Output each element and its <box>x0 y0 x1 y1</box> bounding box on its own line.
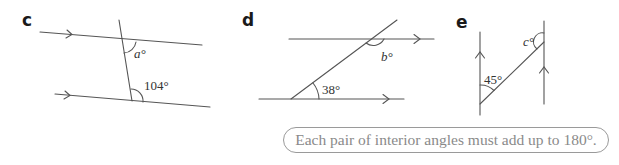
diagram-d-angle-38-arc <box>313 83 319 99</box>
diagram-e-lines <box>476 21 549 115</box>
diagram-e-angle-45-label: 45° <box>484 73 502 86</box>
diagram-e-angle-c-label: c° <box>523 35 534 48</box>
diagram-c-angle-104-label: 104° <box>144 79 169 92</box>
diagram-e-part-label: e <box>456 14 468 31</box>
diagram-c-lines <box>40 20 210 107</box>
diagram-c-part-label: c <box>22 12 32 29</box>
diagram-c-transversal <box>119 20 132 101</box>
diagram-d-part-label: d <box>242 12 254 29</box>
diagram-d-angle-38-label: 38° <box>322 83 340 96</box>
diagram-c-bottom-parallel-line <box>55 94 210 107</box>
diagram-d-lines <box>259 20 434 104</box>
hint-text: Each pair of interior angles must add up… <box>295 131 597 149</box>
diagram-d-angle-b-arc <box>366 39 384 46</box>
diagram-c-angle-a-label: a° <box>134 47 146 60</box>
hint-box: Each pair of interior angles must add up… <box>283 127 609 153</box>
diagram-d-angle-b-label: b° <box>381 50 393 63</box>
